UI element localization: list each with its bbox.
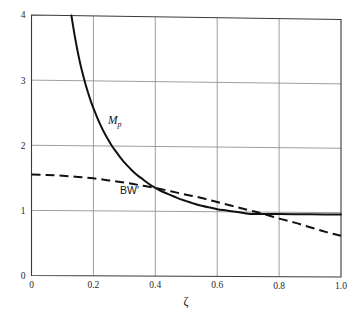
x-tick-label: 0.8 — [273, 281, 285, 291]
series-label-mp: Mp — [107, 114, 122, 129]
x-tick-label: 0 — [29, 280, 34, 290]
y-tick-label: 2 — [21, 141, 26, 151]
grid-line-horizontal — [32, 210, 342, 212]
data-curves — [32, 16, 342, 236]
mp-label-subscript: p — [117, 120, 122, 129]
y-tick-label: 1 — [21, 206, 26, 216]
y-tick-label: 0 — [21, 271, 26, 281]
x-tick-label: 0.2 — [87, 280, 99, 290]
chart-svg: 00.20.40.60.81.0 01234 ζ Mp BW′ — [0, 0, 364, 321]
y-axis-tick-labels: 01234 — [21, 10, 26, 281]
x-axis-tick-labels: 00.20.40.60.81.0 — [29, 280, 347, 292]
x-tick-label: 0.4 — [149, 280, 161, 290]
x-tick-label: 1.0 — [335, 281, 347, 291]
grid-line-horizontal — [32, 145, 342, 148]
y-tick-label: 3 — [21, 76, 26, 86]
x-axis-title: ζ — [184, 294, 189, 308]
bw-label-text: BW′ — [120, 184, 139, 196]
y-tick-label: 4 — [21, 10, 26, 20]
grid-line-horizontal — [32, 80, 342, 84]
x-tick-label: 0.6 — [211, 280, 223, 290]
chart-figure: 00.20.40.60.81.0 01234 ζ Mp BW′ — [0, 0, 364, 321]
mp-label-text: Mp — [107, 114, 122, 129]
curve-bw — [32, 175, 342, 236]
